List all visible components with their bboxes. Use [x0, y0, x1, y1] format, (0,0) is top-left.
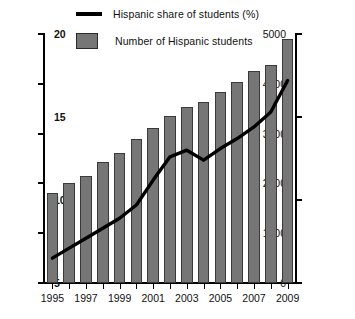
x-tick-label: 1997 — [74, 292, 97, 304]
x-tick-label: 2001 — [142, 292, 165, 304]
line-series — [44, 34, 296, 283]
x-tick-label: 2007 — [242, 292, 265, 304]
x-tick — [254, 283, 255, 289]
y-tick-right — [296, 199, 302, 201]
chart-container: Hispanic share of students (%) Number of… — [0, 0, 355, 319]
x-tick — [86, 283, 87, 289]
y-tick-right — [296, 116, 302, 118]
x-tick — [52, 283, 53, 289]
x-tick-label: 1999 — [108, 292, 131, 304]
x-tick — [204, 283, 205, 289]
x-tick — [103, 283, 104, 289]
x-tick — [136, 283, 137, 289]
x-tick — [220, 283, 221, 289]
line-swatch-icon — [76, 12, 102, 16]
plot-area: 010002000300040005000 5101520 1995199719… — [44, 34, 296, 283]
x-tick — [69, 283, 70, 289]
x-tick — [170, 283, 171, 289]
x-tick — [120, 283, 121, 289]
x-tick-label: 2005 — [209, 292, 232, 304]
x-tick — [153, 283, 154, 289]
x-tick-label: 2009 — [276, 292, 299, 304]
y-tick-right — [296, 282, 302, 284]
x-tick — [237, 283, 238, 289]
legend-label-line: Hispanic share of students (%) — [113, 8, 259, 20]
x-tick — [187, 283, 188, 289]
x-tick-label: 2003 — [175, 292, 198, 304]
x-tick — [288, 283, 289, 289]
legend-item-line: Hispanic share of students (%) — [76, 8, 259, 20]
line-path — [52, 80, 287, 258]
y-tick-right — [296, 33, 302, 35]
x-tick — [271, 283, 272, 289]
x-tick-label: 1995 — [41, 292, 64, 304]
